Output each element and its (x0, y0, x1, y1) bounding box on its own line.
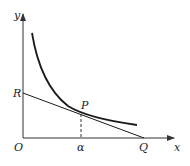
alpha-label: α (77, 142, 84, 153)
y-axis-label: y (14, 10, 20, 21)
origin-label: O (14, 142, 23, 153)
point-q-label: Q (139, 142, 148, 153)
x-axis-label: x (174, 142, 180, 153)
point-p-label: P (81, 100, 88, 111)
point-r-label: R (13, 88, 21, 99)
diagram-canvas: y O R P α Q x (0, 0, 190, 166)
diagram-svg (0, 0, 190, 166)
